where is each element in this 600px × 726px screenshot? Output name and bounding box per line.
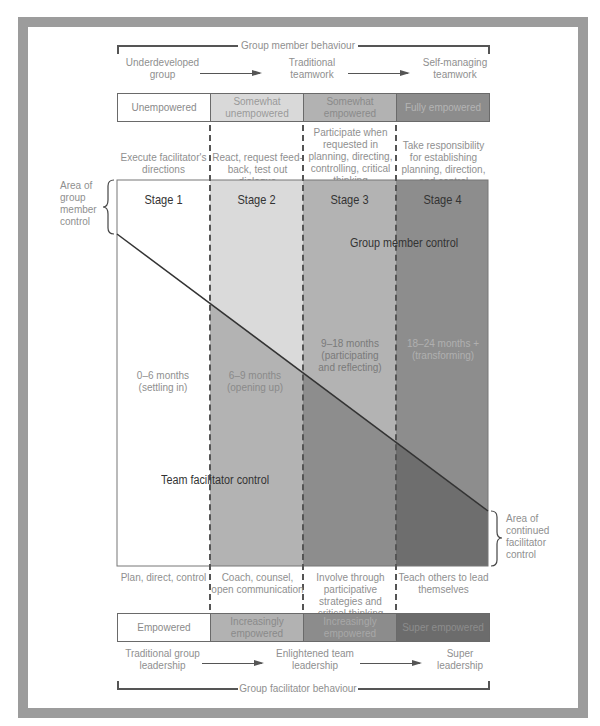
stage-divider bbox=[302, 125, 304, 610]
stage-2-label: Stage 2 bbox=[217, 192, 296, 207]
duration-stage-4: 18–24 months + (transforming) bbox=[400, 338, 486, 362]
progression-traditional-group-leadership: Traditional group leadership bbox=[120, 648, 205, 672]
empowerment-bar-bottom: Empowered Increasingly empowered Increas… bbox=[117, 613, 490, 642]
bottom-bracket-label: Group facilitator behaviour bbox=[238, 683, 358, 695]
area-continued-facilitator-control-annotation: Area of continued facilitator control bbox=[506, 513, 561, 561]
stage-divider bbox=[395, 125, 397, 610]
progression-enlightened-team-leadership: Enlightened team leadership bbox=[270, 648, 360, 672]
duration-stage-2: 6–9 months (opening up) bbox=[222, 370, 288, 394]
bottom-description-stage-2: Coach, counsel, open communication bbox=[211, 572, 304, 596]
stage-1-label: Stage 1 bbox=[124, 192, 203, 207]
duration-stage-3: 9–18 months (participating and reflectin… bbox=[312, 338, 388, 374]
bar-cell-increasingly-empowered-2: Increasingly empowered bbox=[304, 614, 397, 641]
stage-4-label: Stage 4 bbox=[403, 192, 482, 207]
bottom-description-stage-4: Teach others to lead themselves bbox=[397, 572, 490, 596]
group-member-control-label: Group member control bbox=[350, 236, 458, 250]
bar-cell-empowered: Empowered bbox=[118, 614, 211, 641]
stage-divider bbox=[209, 125, 211, 610]
bottom-description-stage-1: Plan, direct, control bbox=[117, 572, 210, 584]
arrow-icon bbox=[202, 663, 262, 664]
team-facilitator-control-label: Team facilitator control bbox=[161, 473, 269, 487]
progression-super-leadership: Super leadership bbox=[430, 648, 490, 672]
duration-stage-1: 0–6 months (settling in) bbox=[130, 370, 196, 394]
arrow-icon bbox=[360, 663, 420, 664]
area-group-member-control-annotation: Area of group member control bbox=[60, 180, 100, 228]
stage-3-label: Stage 3 bbox=[310, 192, 389, 207]
bar-cell-increasingly-empowered: Increasingly empowered bbox=[211, 614, 304, 641]
bar-cell-super-empowered: Super empowered bbox=[397, 614, 489, 641]
